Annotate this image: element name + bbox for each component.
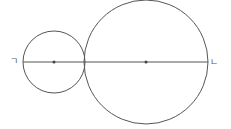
label-right: ㄴ — [210, 58, 218, 67]
large-circle-center — [145, 61, 148, 64]
label-left: ㄱ — [10, 57, 18, 66]
tangent-circles-diagram — [0, 0, 231, 129]
small-circle-center — [53, 61, 56, 64]
